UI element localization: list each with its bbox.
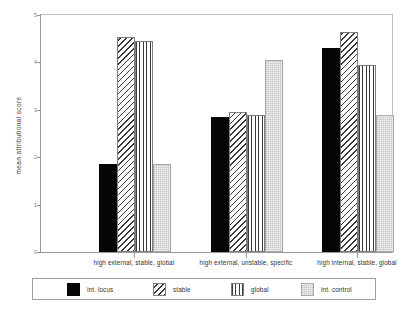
y-axis-tick-label: 3 xyxy=(28,106,37,112)
y-axis-tick-label: 2 xyxy=(28,154,37,160)
bar-int-locus xyxy=(322,48,340,252)
plot-inner: 012345 xyxy=(41,15,392,252)
legend-label: stable xyxy=(173,286,191,293)
y-axis-tick xyxy=(37,205,41,206)
y-axis-tick-label: 1 xyxy=(28,201,37,207)
bar-group xyxy=(99,15,171,252)
x-axis-tick xyxy=(134,253,135,258)
legend-swatch-diagonal-hatch xyxy=(153,283,166,296)
y-axis-tick-label: 0 xyxy=(28,249,37,255)
y-axis-tick xyxy=(37,62,41,63)
y-axis-tick xyxy=(37,252,41,253)
x-axis-category-label: high external, stable, global xyxy=(93,259,174,266)
bar-int-control xyxy=(265,60,283,252)
bar-int-locus xyxy=(99,164,117,252)
legend-label: int. locus xyxy=(87,286,113,293)
bar-global xyxy=(358,65,376,252)
x-axis-category-label: high internal, stable, global xyxy=(317,259,396,266)
y-axis-tick xyxy=(37,157,41,158)
bar-int-locus xyxy=(211,117,229,252)
bar-stable xyxy=(229,112,247,252)
y-axis-title: mean attributional score xyxy=(15,66,22,206)
legend-swatch-light-stipple xyxy=(301,283,314,296)
legend-label: global xyxy=(251,286,269,293)
legend-item[interactable]: int. control xyxy=(301,279,352,299)
y-axis-tick xyxy=(37,110,41,111)
plot-area: 012345 xyxy=(40,14,393,253)
bar-stable xyxy=(117,37,135,252)
bar-group xyxy=(322,15,394,252)
bar-group xyxy=(211,15,283,252)
chart-legend: int. locusstableglobalint. control xyxy=(32,278,376,300)
bar-global xyxy=(247,115,265,252)
legend-item[interactable]: global xyxy=(231,279,269,299)
y-axis-tick-label: 4 xyxy=(28,59,37,65)
y-axis-tick-label: 5 xyxy=(28,12,37,18)
bar-stable xyxy=(340,32,358,252)
x-axis-tick xyxy=(357,253,358,258)
bar-int-control xyxy=(376,115,394,252)
legend-label: int. control xyxy=(321,286,352,293)
y-axis-tick xyxy=(37,15,41,16)
bar-int-control xyxy=(153,164,171,252)
x-axis-category-label: high external, unstable, specific xyxy=(200,259,293,266)
chart-root: mean attributional score 012345 high ext… xyxy=(0,0,407,309)
legend-item[interactable]: int. locus xyxy=(67,279,113,299)
legend-swatch-solid-black xyxy=(67,283,80,296)
x-axis-tick xyxy=(246,253,247,258)
bar-global xyxy=(135,41,153,252)
legend-swatch-vertical-lines xyxy=(231,283,244,296)
legend-item[interactable]: stable xyxy=(153,279,191,299)
